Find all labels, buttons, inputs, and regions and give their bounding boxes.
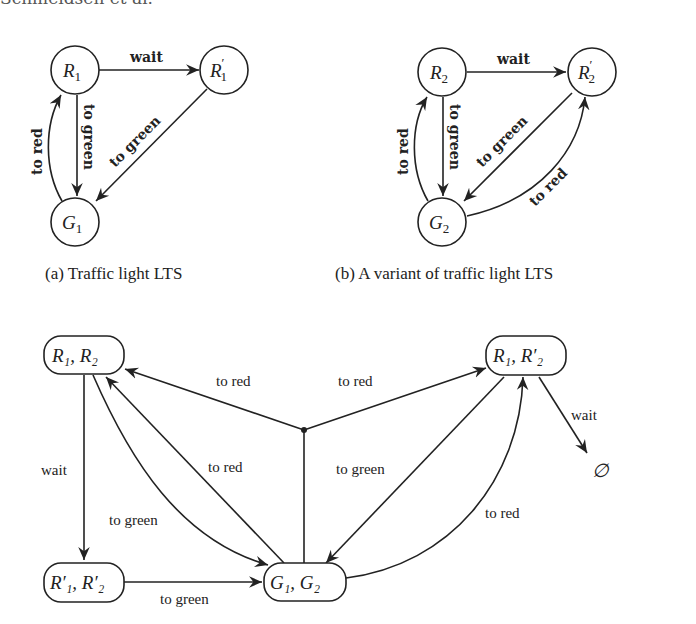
figure-a-traffic-light-lts: wait to green to red to green R1 R′1 G1 …	[29, 46, 248, 283]
edge-a-to-green-diag	[96, 89, 207, 201]
caption-a: (a) Traffic light LTS	[45, 264, 182, 283]
svg-text:R₁, R₂: R₁, R₂	[51, 345, 98, 366]
figure-c-product-lts: to red to red wait to green to red to gr…	[41, 336, 610, 607]
edge-a-wait-label: wait	[129, 49, 163, 65]
node-R1-prime: R′1	[200, 46, 248, 94]
edge-c-to-red-straight	[106, 377, 284, 563]
edge-a-to-red-up	[48, 95, 62, 201]
edge-c-to-green-diag-label: to green	[336, 461, 385, 477]
node-G2: G2	[418, 198, 466, 246]
node-R1-R2-prime: R₁, R′₂	[486, 336, 566, 375]
svg-text:R′1: R′1	[209, 55, 227, 84]
edge-b-to-green-diag-label: to green	[473, 112, 531, 170]
node-empty-set: ∅	[592, 460, 610, 481]
edge-b-to-red-up	[414, 97, 428, 201]
edge-c-to-red-curve-label: to red	[485, 505, 520, 521]
edge-a-to-red-up-label: to red	[29, 128, 45, 175]
figure-b-traffic-light-variant: wait to green to red to green to red R2 …	[335, 48, 616, 283]
edge-c-to-green-curve-label: to green	[109, 512, 158, 528]
node-R1: R1	[51, 46, 99, 94]
edge-b-wait-label: wait	[496, 51, 530, 67]
edge-b-to-red-up-label: to red	[395, 128, 411, 175]
figure-canvas: wait to green to red to green R1 R′1 G1 …	[0, 0, 696, 624]
hyperedge-to-R1R2	[125, 369, 304, 430]
node-G1-G2: G₁, G₂	[264, 563, 346, 601]
edge-c-to-green-bottom-label: to green	[160, 591, 209, 607]
svg-text:R′₁, R′₂: R′₁, R′₂	[49, 572, 105, 593]
hyperedge-label-left: to red	[216, 373, 251, 389]
hyperedge-label-right: to red	[338, 373, 373, 389]
node-R1-R2: R₁, R₂	[44, 336, 124, 374]
edge-a-to-green-down-label: to green	[81, 104, 97, 170]
edge-b-to-green-down-label: to green	[447, 104, 463, 170]
node-R2: R2	[418, 48, 466, 96]
edge-c-wait-to-empty-label: wait	[571, 407, 598, 423]
node-R2-prime: R′2	[568, 48, 616, 96]
svg-text:R₁, R′₂: R₁, R′₂	[492, 345, 543, 366]
caption-b: (b) A variant of traffic light LTS	[335, 264, 553, 283]
edge-c-wait-label: wait	[41, 462, 68, 478]
hyperedge-to-R1R2p	[304, 368, 486, 430]
svg-text:G₁, G₂: G₁, G₂	[270, 572, 321, 593]
edge-c-to-red-straight-label: to red	[208, 459, 243, 475]
svg-text:R′2: R′2	[577, 57, 595, 86]
node-G1: G1	[51, 198, 99, 246]
node-R1-prime-R2-prime: R′₁, R′₂	[44, 563, 124, 602]
